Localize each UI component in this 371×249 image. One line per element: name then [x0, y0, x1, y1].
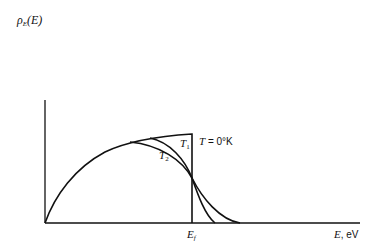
t1-subscript: 1 — [186, 143, 190, 151]
t2-annotation: T2 — [159, 150, 169, 163]
x-axis-label-unit: , eV — [341, 229, 359, 240]
t0-annotation: T = 0°K — [199, 136, 233, 147]
fermi-energy-subscript: f — [194, 234, 196, 242]
fermi-distribution-chart: ρE(E) E, eV Ef T = 0°K T1 T2 — [0, 0, 371, 249]
t0-value: = 0°K — [205, 136, 233, 147]
t1-annotation: T1 — [180, 138, 190, 151]
chart-canvas — [0, 0, 371, 249]
x-axis-label-symbol: E — [334, 228, 341, 240]
x-axis-label: E, eV — [334, 229, 359, 240]
t2-subscript: 2 — [165, 155, 169, 163]
fermi-energy-label: Ef — [187, 229, 196, 242]
fermi-energy-symbol: E — [187, 228, 194, 240]
curve-t2 — [130, 142, 240, 223]
y-axis-label: ρE(E) — [17, 14, 42, 28]
y-axis-label-argument: (E) — [27, 13, 42, 27]
